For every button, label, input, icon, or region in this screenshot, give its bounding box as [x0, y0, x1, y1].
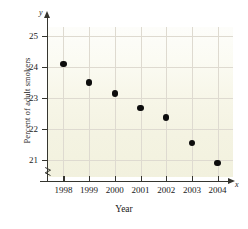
y-axis-tick-label: 25 [14, 31, 38, 41]
x-axis-tick-label: 2004 [201, 185, 235, 195]
data-point [60, 61, 67, 68]
y-axis-letter: y [39, 8, 43, 17]
y-axis-tick-label: 21 [14, 155, 38, 165]
x-axis-arrow-icon [228, 178, 235, 184]
x-axis-tick [63, 176, 64, 182]
y-axis-tick [42, 98, 48, 99]
gridline-vertical [63, 27, 64, 177]
x-axis-tick [192, 176, 193, 182]
y-axis-arrow-icon [44, 11, 50, 18]
y-axis-tick [42, 67, 48, 68]
y-axis-tick-label: 22 [14, 124, 38, 134]
x-axis-tick [166, 176, 167, 182]
x-axis-line [40, 181, 230, 182]
x-axis-tick [141, 176, 142, 182]
data-point [137, 105, 144, 112]
x-axis-tick [218, 176, 219, 182]
y-axis-tick [42, 160, 48, 161]
x-axis-tick [89, 176, 90, 182]
axis-break-icon [44, 167, 52, 176]
x-axis-title: Year [0, 204, 248, 214]
gridline-vertical [192, 27, 193, 177]
data-point [112, 90, 119, 97]
y-axis-tick [42, 129, 48, 130]
gridline-vertical [218, 27, 219, 177]
x-axis-letter: x [235, 180, 239, 189]
gridline-vertical [115, 27, 116, 177]
gridline-vertical [141, 27, 142, 177]
y-axis-tick [42, 36, 48, 37]
y-axis-tick-label: 24 [14, 62, 38, 72]
gridline-vertical [89, 27, 90, 177]
x-axis-tick [115, 176, 116, 182]
gridline-vertical [166, 27, 167, 177]
y-axis-tick-label: 23 [14, 93, 38, 103]
plot-area [48, 27, 233, 177]
scatter-plot-figure: Percent of adult smokers Year y x 212223… [0, 0, 248, 229]
